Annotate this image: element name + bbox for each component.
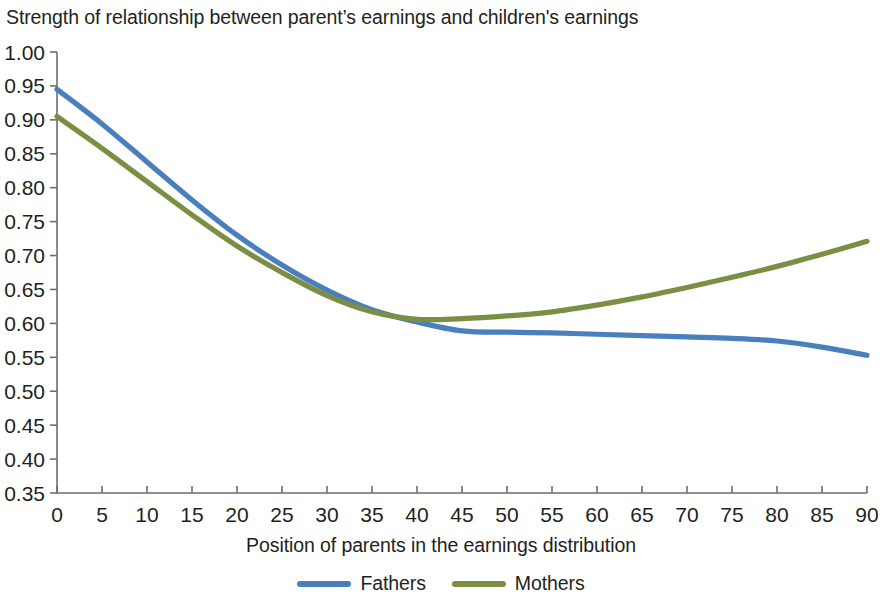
- y-axis-tick-label: 0.85: [4, 142, 45, 165]
- legend-item-fathers[interactable]: Fathers: [297, 572, 425, 595]
- legend-swatch-icon: [297, 581, 351, 587]
- x-axis-tick-label: 5: [96, 503, 108, 526]
- y-axis-tick-label: 0.80: [4, 176, 45, 199]
- y-axis-tick-label: 0.50: [4, 380, 45, 403]
- y-axis-tick-label: 0.55: [4, 346, 45, 369]
- x-axis-tick-label: 60: [585, 503, 608, 526]
- x-axis-tick-label: 65: [630, 503, 653, 526]
- x-axis-tick-label: 15: [180, 503, 203, 526]
- legend-label: Mothers: [515, 572, 585, 595]
- x-axis-tick-label: 10: [135, 503, 158, 526]
- x-axis-tick-label: 75: [720, 503, 743, 526]
- x-axis-tick-labels: 051015202530354045505560657075808590: [51, 503, 879, 526]
- x-axis-tick-label: 90: [855, 503, 878, 526]
- x-axis-tick-label: 45: [450, 503, 473, 526]
- x-axis-tick-label: 30: [315, 503, 338, 526]
- x-axis-tick-label: 85: [810, 503, 833, 526]
- y-axis-tick-label: 0.40: [4, 448, 45, 471]
- chart-plot-area: 0.350.400.450.500.550.600.650.700.750.80…: [0, 0, 882, 603]
- legend-swatch-icon: [452, 581, 506, 587]
- x-axis-tick-label: 20: [225, 503, 248, 526]
- legend-item-mothers[interactable]: Mothers: [452, 572, 585, 595]
- y-axis-tick-label: 0.95: [4, 74, 45, 97]
- x-axis-tick-label: 50: [495, 503, 518, 526]
- series-line-fathers: [57, 89, 867, 355]
- x-axis-title: Position of parents in the earnings dist…: [0, 534, 882, 557]
- chart-figure: Strength of relationship between parent’…: [0, 0, 882, 603]
- x-axis-tick-label: 70: [675, 503, 698, 526]
- x-axis-tick-label: 25: [270, 503, 293, 526]
- x-axis-tick-label: 35: [360, 503, 383, 526]
- x-axis-tick-label: 80: [765, 503, 788, 526]
- series-line-mothers: [57, 116, 867, 319]
- x-axis-tick-label: 40: [405, 503, 428, 526]
- y-axis-tick-label: 0.45: [4, 414, 45, 437]
- y-axis-tick-label: 0.65: [4, 278, 45, 301]
- x-axis-tick-label: 0: [51, 503, 63, 526]
- y-axis-tick-label: 0.90: [4, 108, 45, 131]
- y-axis-tick-label: 0.35: [4, 482, 45, 505]
- chart-legend: FathersMothers: [0, 572, 882, 595]
- y-axis-tick-label: 0.75: [4, 210, 45, 233]
- y-axis-tick-labels: 0.350.400.450.500.550.600.650.700.750.80…: [4, 41, 45, 505]
- y-axis-tick-label: 1.00: [4, 41, 45, 64]
- data-series-lines: [57, 89, 867, 355]
- x-axis-tick-label: 55: [540, 503, 563, 526]
- legend-label: Fathers: [360, 572, 425, 595]
- y-axis-tick-label: 0.60: [4, 312, 45, 335]
- y-axis-tick-label: 0.70: [4, 244, 45, 267]
